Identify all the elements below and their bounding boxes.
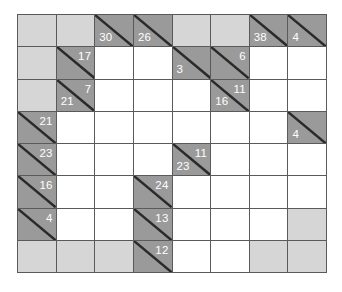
- blank-cell: [18, 47, 56, 78]
- down-clue: 3: [177, 64, 184, 76]
- entry-cell[interactable]: [57, 112, 95, 143]
- across-clue: 7: [85, 84, 92, 96]
- down-clue: 23: [177, 161, 190, 173]
- entry-cell[interactable]: [134, 144, 172, 175]
- clue-cell: 38: [250, 15, 288, 46]
- entry-cell[interactable]: [173, 241, 211, 272]
- entry-cell[interactable]: [250, 112, 288, 143]
- clue-cell: 12: [134, 241, 172, 272]
- blank-cell: [173, 15, 211, 46]
- entry-cell[interactable]: [250, 80, 288, 111]
- across-clue: 23: [39, 148, 52, 160]
- entry-cell[interactable]: [95, 80, 133, 111]
- down-clue: 16: [215, 96, 228, 108]
- entry-cell[interactable]: [173, 80, 211, 111]
- across-clue: 12: [155, 245, 168, 257]
- entry-cell[interactable]: [211, 241, 249, 272]
- entry-cell[interactable]: [250, 209, 288, 240]
- across-clue: 11: [195, 148, 207, 160]
- across-clue: 11: [233, 84, 245, 96]
- clue-cell: 1123: [173, 144, 211, 175]
- entry-cell[interactable]: [57, 209, 95, 240]
- entry-cell[interactable]: [288, 80, 326, 111]
- down-clue: 4: [292, 32, 299, 44]
- across-clue: 16: [39, 180, 52, 192]
- blank-cell: [288, 241, 326, 272]
- clue-cell: 4: [288, 112, 326, 143]
- clue-cell: 4: [288, 15, 326, 46]
- entry-cell[interactable]: [134, 47, 172, 78]
- entry-cell[interactable]: [211, 176, 249, 207]
- blank-cell: [211, 15, 249, 46]
- clue-cell: 721: [57, 80, 95, 111]
- blank-cell: [57, 241, 95, 272]
- entry-cell[interactable]: [134, 112, 172, 143]
- clue-cell: 21: [18, 112, 56, 143]
- clue-cell: 24: [134, 176, 172, 207]
- entry-cell[interactable]: [57, 144, 95, 175]
- across-clue: 24: [155, 180, 168, 192]
- down-clue: 4: [292, 129, 299, 141]
- down-clue: 30: [99, 32, 112, 44]
- clue-cell: 23: [18, 144, 56, 175]
- down-clue: 38: [254, 32, 267, 44]
- across-clue: 4: [46, 213, 53, 225]
- entry-cell[interactable]: [95, 112, 133, 143]
- blank-cell: [288, 209, 326, 240]
- down-clue: 21: [61, 96, 74, 108]
- entry-cell[interactable]: [288, 176, 326, 207]
- entry-cell[interactable]: [288, 47, 326, 78]
- clue-cell: 1116: [211, 80, 249, 111]
- entry-cell[interactable]: [211, 112, 249, 143]
- clue-cell: 26: [134, 15, 172, 46]
- entry-cell[interactable]: [250, 144, 288, 175]
- entry-cell[interactable]: [173, 112, 211, 143]
- across-clue: 17: [78, 51, 91, 63]
- clue-cell: 3: [173, 47, 211, 78]
- blank-cell: [18, 80, 56, 111]
- entry-cell[interactable]: [95, 144, 133, 175]
- clue-cell: 4: [18, 209, 56, 240]
- blank-cell: [250, 241, 288, 272]
- blank-cell: [57, 15, 95, 46]
- clue-cell: 16: [18, 176, 56, 207]
- entry-cell[interactable]: [173, 209, 211, 240]
- blank-cell: [18, 241, 56, 272]
- across-clue: 13: [155, 213, 168, 225]
- clue-cell: 6: [211, 47, 249, 78]
- entry-cell[interactable]: [95, 176, 133, 207]
- entry-cell[interactable]: [95, 209, 133, 240]
- clue-cell: 13: [134, 209, 172, 240]
- clue-cell: 30: [95, 15, 133, 46]
- down-clue: 26: [138, 32, 151, 44]
- entry-cell[interactable]: [250, 47, 288, 78]
- blank-cell: [18, 15, 56, 46]
- entry-cell[interactable]: [250, 176, 288, 207]
- blank-cell: [95, 241, 133, 272]
- clue-cell: 17: [57, 47, 95, 78]
- across-clue: 21: [39, 116, 52, 128]
- entry-cell[interactable]: [95, 47, 133, 78]
- entry-cell[interactable]: [288, 144, 326, 175]
- entry-cell[interactable]: [173, 176, 211, 207]
- entry-cell[interactable]: [211, 144, 249, 175]
- across-clue: 6: [239, 51, 246, 63]
- entry-cell[interactable]: [211, 209, 249, 240]
- entry-cell[interactable]: [57, 176, 95, 207]
- kakuro-board: 302638417367211116214231123162441312: [17, 14, 327, 273]
- entry-cell[interactable]: [134, 80, 172, 111]
